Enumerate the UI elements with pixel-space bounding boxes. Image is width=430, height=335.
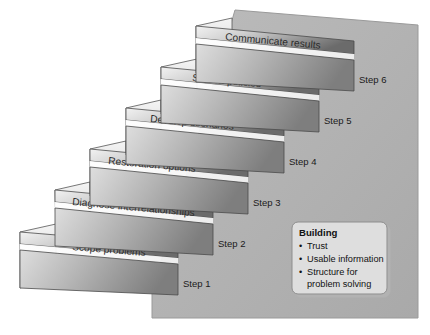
step-6-marker: Step 6 [359, 74, 386, 85]
callout-bullet-2: • [299, 267, 302, 277]
callout-item-0: Trust [307, 241, 328, 251]
callout-item-2-row: • Structure for [299, 267, 358, 277]
callout-item-1: Usable information [307, 254, 384, 264]
callout-bullet-1: • [299, 254, 302, 264]
step-4-marker: Step 4 [289, 156, 316, 167]
staircase-svg: Scope problems Step 1 Diagnose interrela… [0, 0, 430, 335]
step-2-marker: Step 2 [218, 238, 245, 249]
callout-item-3: problem solving [307, 279, 371, 289]
step-1-marker: Step 1 [183, 278, 210, 289]
callout-item-1-row: • Usable information [299, 254, 384, 264]
step-3-marker: Step 3 [253, 197, 280, 208]
diagram-canvas: Scope problems Step 1 Diagnose interrela… [0, 0, 430, 335]
step-5-marker: Step 5 [324, 115, 351, 126]
callout-bullet-0: • [299, 241, 302, 251]
callout-title: Building [299, 227, 338, 238]
callout-item-2: Structure for [307, 267, 358, 277]
